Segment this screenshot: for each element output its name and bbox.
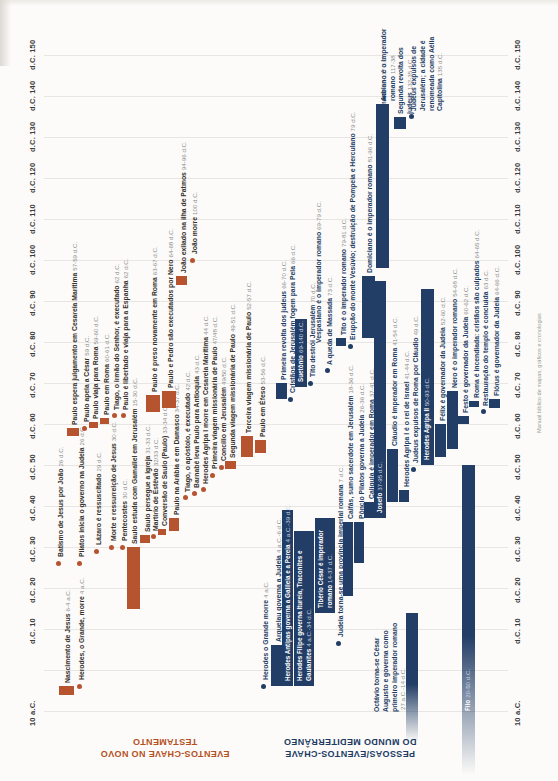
event-date: 6-4 a.C. [64,590,71,614]
event-label-line: Octávio torna-se César [373,623,382,712]
event-date: 30 d.C. [121,479,128,501]
event-date: 49-51 d.C. [229,303,236,334]
section-title-line: DO MUNDO MEDITERRÂNEO [284,738,417,748]
event-bar [158,529,166,535]
event-date: 4 a.C.-6 d.C. [275,518,282,555]
event-date: 117-38 [389,55,396,76]
event-date: 64-66 d.C. [493,267,500,298]
event-label-line: Conversão de Saulo (Paulo)33-34 d.C. [161,404,170,525]
event-label-line: Segunda viagem missionária de Paulo49-51… [229,303,238,458]
event-label: Herodes Agripa II50-93 d.C. [423,377,432,460]
event-dot [210,473,215,478]
event-bar [89,422,98,428]
event-bar [271,645,282,686]
event-label: Pilatos inicia o governo na Judeia26 d.C… [78,426,87,558]
event-date: 43 d.C. [193,354,200,376]
event-label-line: Erupção do monte Vesúvio; destruição de … [349,112,358,341]
event-date: 135 d.C. [436,52,443,77]
event-label-line: A queda de Massada73 d.C. [326,276,335,365]
event-label: Judeus expulsos deJerusalém; a cidade ér… [410,36,445,110]
section-title-line: PESSOAS/EVENTOS-CHAVE [285,749,415,759]
event-label: Festo é governador da Judeia60-62 d.C. [462,286,471,413]
event-bar [376,190,389,268]
event-dot [201,487,206,492]
axis-tick-left-70: d.C. 70 [28,372,37,398]
event-date: 62 d.C. [122,258,129,280]
event-dot [190,258,195,263]
event-label-line: Primeira revolta dos judeus66-70 d.C. [280,260,289,380]
event-label: Paulo é libertado e viaja para a Espanha… [122,258,131,410]
event-label-line: Concílio em Jerusalém49/50 d.C. [220,356,229,461]
event-label: Paulo espera julgamento em Cesareia Marí… [71,242,80,425]
event-label: Primeira revolta dos judeus66-70 d.C. [280,260,289,380]
axis-tick-right-80: d.C. 80 [513,331,522,357]
event-date: 4 a.C.-39 d.C. [284,504,291,545]
event-label-line: Paulo em Éfeso53-56 d.C. [259,356,268,438]
event-label-line: Judeus expulsos de [410,36,419,110]
event-label-line: Paulo em Roma60-61 d.C. [103,333,112,415]
event-date: 63-67 d.C. [151,247,158,278]
event-label-line: Herodes Antipas governa a Galileia e a P… [284,504,293,681]
event-bar [354,522,364,563]
section-title-line: EVENTOS-CHAVE NO NOVO [100,749,229,759]
event-dot [77,561,82,566]
event-label: Erupção do monte Vesúvio; destruição de … [349,112,358,341]
event-label: Restauração do templo é concluída63 d.C. [482,269,491,405]
event-date: 64-65 d.C. [473,230,480,261]
event-label-line: Paulo viaja para Roma59-60 d.C. [92,315,101,418]
event-dot [481,409,486,414]
event-label: Josefo37-95 d.C. [376,462,385,513]
event-label: Flórus é governador da Judeia64-66 d.C. [493,267,502,397]
axis-tick-left-60: d.C. 60 [28,413,37,439]
event-date: 94-96 d.C. [180,142,187,173]
event-label-line: Tito é o imperador romano79-81 d.C. [340,218,349,335]
event-label-line: Gaulanites4 a.C.-34 d.C. [305,551,314,682]
event-label: Concílio em Jerusalém49/50 d.C. [220,356,229,461]
event-dot [151,534,156,539]
event-date: 37-95 d.C. [376,462,383,493]
axis-tick-left-10: d.C. 10 [28,618,37,644]
event-label-line: Segunda revolta dos [397,47,406,114]
axis-tick-right-60: d.C. 60 [513,413,522,439]
event-bar [458,416,469,424]
event-label-line: Saulo estuda com Gamaliel em Jerusalém15… [131,377,140,544]
timeline-chart-page: 10 a.C.10 a.C.d.C. 10d.C. 10d.C. 20d.C. … [0,0,558,781]
event-label: Herodes o Grande morre4 a.C. [262,582,271,681]
event-label: João morre100 d.C. [191,192,200,254]
event-dot [112,413,117,418]
event-dot [94,549,99,554]
event-bar [140,535,150,543]
event-date: 4 a.C. [78,578,85,597]
event-label: Caifás, sumo sacerdote em Jerusalém18-36… [347,365,356,519]
event-date: 20-50 d.C. [464,669,471,700]
event-date: 31-33 d.C. [144,424,151,455]
event-date: 32/33 d.C. [152,438,159,469]
gridline-year-120 [44,178,508,179]
event-label-line: Cláudio é imperador em Roma41-54 d.C. [391,316,400,445]
event-date: 64-68 d.C. [167,229,174,260]
event-dot [121,413,126,418]
event-date: 14-37 d.C. [326,554,333,585]
gridline-year-100 [44,260,508,261]
event-label-line: Pentecostes30 d.C. [121,479,130,541]
event-date: 41-44 d.C. [403,350,410,381]
axis-tick-right-120: d.C. 120 [513,163,522,193]
event-label: Herodes, o Grande, morre4 a.C. [78,578,87,680]
event-bar [169,518,179,530]
event-label-line: Primeira viagem missionária de Paulo47/4… [211,316,220,469]
event-date: 60-61 d.C. [103,333,110,364]
event-bar [100,418,109,424]
event-label-line: Nascimento de Jesus6-4 a.C. [64,590,73,684]
event-date: 29 d.C. [95,452,102,474]
event-bar [376,104,389,190]
event-date: 50-93 d.C. [423,377,430,408]
axis-tick-left-120: d.C. 120 [28,163,37,193]
axis-tick-left-30: d.C. 30 [28,536,37,562]
event-dot [192,491,197,496]
axis-tick-left-150: d.C. 150 [28,40,37,70]
event-label-line: Vespasiano é o imperador romano69-79 d.C… [315,201,324,343]
event-label: Cláudio é imperador em Roma41-54 d.C. [391,316,400,445]
axis-tick-right-70: d.C. 70 [513,372,522,398]
event-bar [362,276,375,338]
event-label: Adriano é o imperadorromano117-38 [380,29,398,102]
